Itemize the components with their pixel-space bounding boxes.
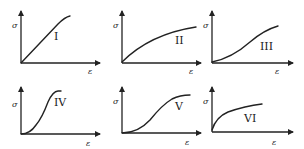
panel-label: VI	[243, 112, 256, 125]
panel-vi: σ ε VI	[203, 87, 293, 147]
sigma-label: σ	[12, 21, 18, 30]
panel-ii: σ ε II	[113, 11, 201, 76]
epsilon-label: ε	[185, 138, 189, 147]
sigma-label: σ	[12, 100, 18, 109]
panel-label: II	[175, 34, 184, 47]
panel-label: III	[260, 40, 273, 53]
epsilon-label: ε	[88, 67, 92, 76]
panel-iv: σ ε IV	[12, 87, 100, 148]
epsilon-label: ε	[272, 138, 276, 147]
sigma-label: σ	[203, 97, 209, 106]
curve-i	[21, 16, 70, 63]
stress-strain-diagram: σ ε I σ ε II σ ε III σ ε IV σ ε V	[0, 0, 304, 149]
panel-i: σ ε I	[12, 11, 100, 76]
epsilon-label: ε	[86, 139, 90, 148]
curve-ii	[122, 27, 196, 62]
panel-label: I	[54, 30, 58, 43]
panel-label: IV	[54, 96, 67, 109]
panel-v: σ ε V	[113, 87, 201, 147]
sigma-label: σ	[113, 97, 119, 106]
panel-label: V	[174, 100, 184, 113]
sigma-label: σ	[203, 21, 209, 30]
panel-iii: σ ε III	[203, 11, 293, 76]
epsilon-label: ε	[189, 67, 193, 76]
sigma-label: σ	[113, 21, 119, 30]
epsilon-label: ε	[275, 67, 279, 76]
